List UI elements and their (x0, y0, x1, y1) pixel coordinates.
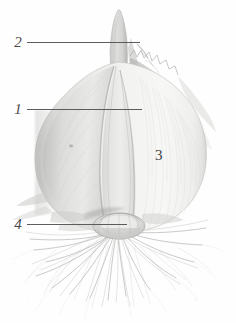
callout-1-leader-line (27, 109, 142, 110)
callout-4-leader-line (27, 224, 127, 225)
callout-1-number: 1 (12, 102, 24, 117)
callout-1: 1 (12, 100, 142, 118)
callout-2-number: 2 (12, 35, 24, 50)
callout-2-leader-line (27, 42, 140, 43)
callout-2: 2 (12, 33, 140, 51)
callout-3-number: 3 (155, 148, 163, 163)
callout-4: 4 (12, 215, 127, 233)
bulb-figure: 2 1 4 3 (0, 0, 236, 323)
callout-4-number: 4 (12, 217, 24, 232)
